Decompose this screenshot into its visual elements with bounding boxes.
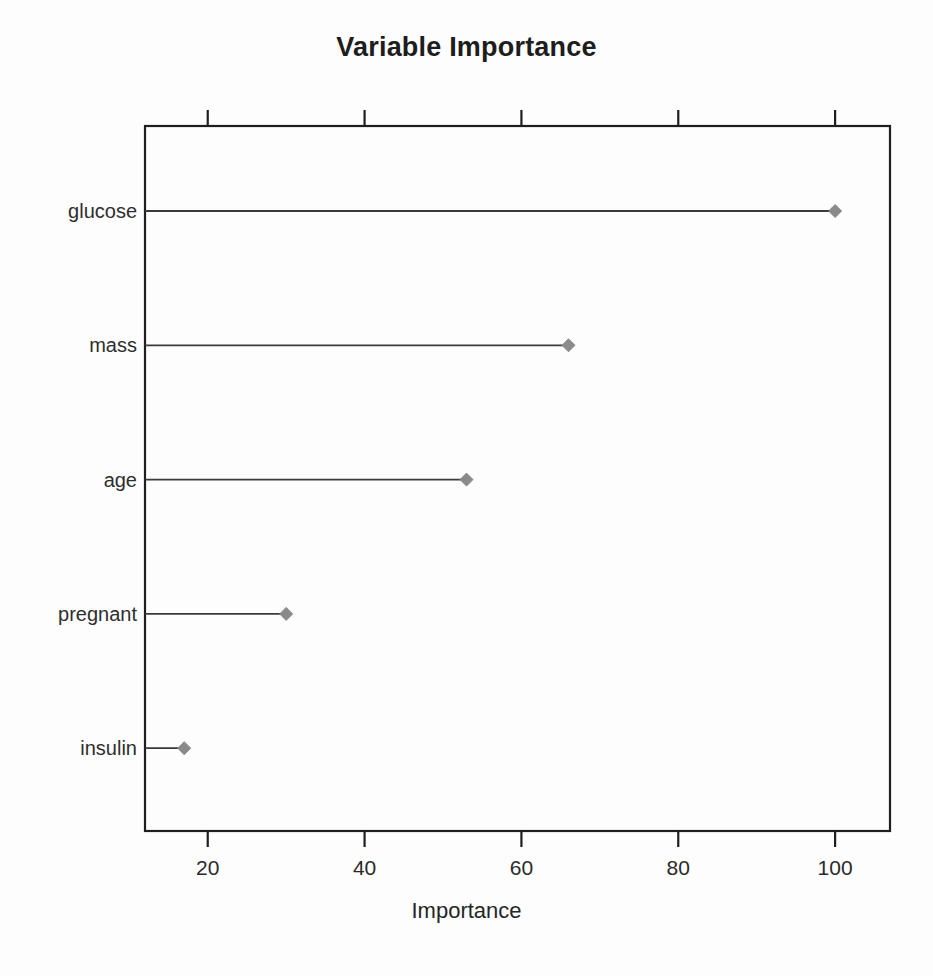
x-axis-title: Importance	[0, 898, 933, 924]
x-axis-tick-labels: 20406080100	[196, 856, 853, 879]
x-tick-label: 20	[196, 856, 219, 879]
y-axis-label-pregnant: pregnant	[58, 602, 137, 625]
dotchart-lines	[145, 211, 835, 748]
x-tick-label: 80	[667, 856, 690, 879]
data-point-marker[interactable]	[562, 339, 575, 352]
data-point-marker[interactable]	[178, 742, 191, 755]
variable-importance-plot: 20406080100	[0, 0, 933, 976]
chart-page: Variable Importance 20406080100 glucosem…	[0, 0, 933, 976]
data-point-marker[interactable]	[460, 473, 473, 486]
plot-frame	[145, 126, 890, 831]
y-axis-label-age: age	[104, 468, 137, 491]
y-axis-label-mass: mass	[89, 334, 137, 357]
x-tick-label: 100	[818, 856, 853, 879]
data-point-marker[interactable]	[829, 205, 842, 218]
x-axis-ticks-top	[208, 110, 835, 126]
data-point-marker[interactable]	[280, 607, 293, 620]
y-axis-label-insulin: insulin	[80, 737, 137, 760]
x-tick-label: 60	[510, 856, 533, 879]
x-axis-ticks-bottom	[208, 831, 835, 847]
x-tick-label: 40	[353, 856, 376, 879]
y-axis-label-glucose: glucose	[68, 200, 137, 223]
